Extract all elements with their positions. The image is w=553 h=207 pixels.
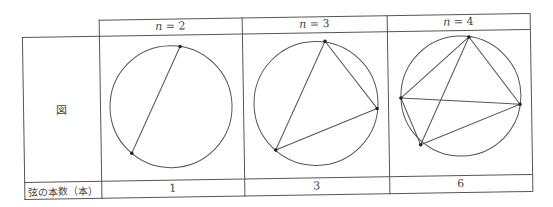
point-icon [419,143,423,147]
chord-figures [0,0,553,207]
figure-n4 [400,35,522,157]
figure-n2 [109,45,233,169]
figure-n3 [253,40,379,166]
chord-count-table: n = 2 n = 3 n = 4 図 弦の本数（本） 1 3 6 [0,0,553,207]
point-icon [178,45,182,49]
